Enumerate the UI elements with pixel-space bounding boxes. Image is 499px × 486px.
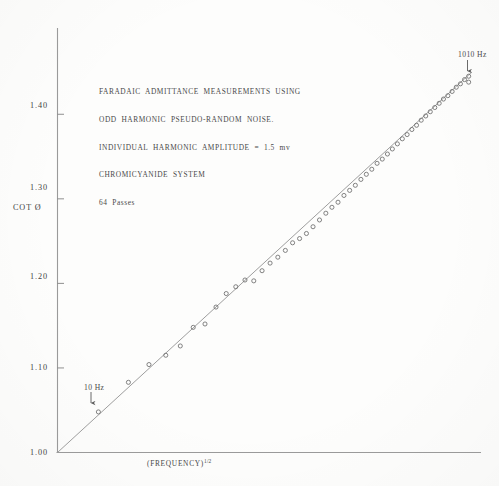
- y-axis-title: COT Ø: [13, 203, 42, 212]
- data-point-marker: [317, 218, 321, 222]
- data-point-marker: [467, 80, 471, 84]
- data-point-marker: [380, 157, 384, 161]
- x-axis-title-text: (FREQUENCY): [147, 459, 204, 468]
- data-point-marker: [342, 193, 346, 197]
- chart-page: 1.40 1.30 1.20 1.10 1.00 COT Ø (FREQUENC…: [0, 0, 499, 486]
- data-point-marker: [385, 152, 389, 156]
- data-point-marker: [330, 205, 334, 209]
- data-point-marker: [203, 322, 207, 326]
- data-point-marker: [96, 410, 100, 414]
- data-point-marker: [359, 177, 363, 181]
- caption-line-1: FARADAIC ADMITTANCE MEASUREMENTS USING: [99, 87, 301, 96]
- data-point-marker: [126, 380, 130, 384]
- y-tick-label-1.20: 1.20: [14, 272, 48, 281]
- data-point-marker: [370, 167, 374, 171]
- y-tick-label-1.30: 1.30: [14, 183, 48, 192]
- caption-block: FARADAIC ADMITTANCE MEASUREMENTS USING O…: [99, 69, 301, 225]
- data-point-marker: [348, 188, 352, 192]
- data-point-marker: [353, 183, 357, 187]
- data-point-marker: [224, 291, 228, 295]
- caption-line-2: ODD HARMONIC PSEUDO-RANDOM NOISE.: [99, 115, 301, 124]
- data-point-marker: [291, 241, 295, 245]
- data-point-marker: [400, 137, 404, 141]
- data-point-marker: [364, 172, 368, 176]
- data-point-marker: [414, 123, 418, 127]
- caption-line-3: INDIVIDUAL HARMONIC AMPLITUDE = 1.5 mv: [99, 143, 301, 152]
- data-point-marker: [147, 363, 151, 367]
- y-tick-label-1.10: 1.10: [14, 363, 48, 372]
- data-point-marker: [164, 353, 168, 357]
- data-point-marker: [268, 261, 272, 265]
- data-point-marker: [178, 344, 182, 348]
- data-point-marker: [390, 147, 394, 151]
- data-point-marker: [276, 255, 280, 259]
- data-point-marker: [311, 225, 315, 229]
- data-point-marker: [324, 211, 328, 215]
- y-tick-label-1.00: 1.00: [14, 448, 48, 457]
- data-point-marker: [410, 127, 414, 131]
- x-axis-title-exponent: 1/2: [204, 458, 212, 464]
- data-point-marker: [375, 161, 379, 165]
- data-point-marker: [405, 133, 409, 137]
- low-frequency-annotation: 10 Hz: [84, 383, 104, 392]
- data-point-marker: [252, 279, 256, 283]
- data-point-marker: [260, 269, 264, 273]
- data-point-marker: [395, 142, 399, 146]
- y-tick-label-1.40: 1.40: [14, 101, 48, 110]
- x-axis-title: (FREQUENCY)1/2: [147, 458, 211, 468]
- data-point-marker: [298, 237, 302, 241]
- caption-line-4: CHROMICYANIDE SYSTEM: [99, 170, 301, 179]
- data-point-marker: [336, 200, 340, 204]
- high-frequency-annotation: 1010 Hz: [458, 50, 487, 59]
- caption-line-5: 64 Passes: [99, 198, 301, 207]
- data-point-marker: [304, 231, 308, 235]
- data-point-marker: [283, 248, 287, 252]
